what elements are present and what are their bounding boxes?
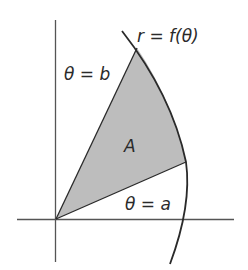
polar-area-diagram: r = f(θ) θ = b θ = a A xyxy=(0,0,248,270)
ray-lower-label: θ = a xyxy=(125,194,171,214)
curve-label: r = f(θ) xyxy=(137,26,199,46)
region-label: A xyxy=(123,136,136,156)
ray-upper-label: θ = b xyxy=(64,64,110,84)
